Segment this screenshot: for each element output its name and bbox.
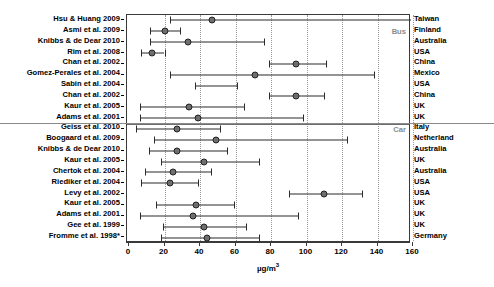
ci-cap-high [246,223,247,230]
data-point-marker [204,234,211,241]
ci-cap-low [141,180,142,187]
ci-cap-low [140,104,141,111]
country-label: USA [414,79,494,90]
confidence-interval-line [140,215,298,216]
plot-row [127,69,409,80]
study-label: Sabin et al. 2004 [0,79,124,90]
plot-row [127,102,409,113]
data-point-marker [173,147,180,154]
data-point-marker [200,223,207,230]
data-point-marker [212,136,219,143]
data-point-marker [166,180,173,187]
x-tick-label-100: 100 [299,247,312,256]
y-axis-tick [121,84,124,85]
x-tick-40 [199,242,200,246]
country-label: Germany [414,231,494,242]
ci-cap-high [326,60,327,67]
country-label-column: TaiwanFinlandAustraliaUSAChinaMexicoUSAC… [414,14,494,242]
ci-cap-high [264,39,265,46]
ci-cap-low [145,169,146,176]
y-axis-tick [121,63,124,64]
data-point-marker [173,125,180,132]
ci-cap-low [170,71,171,78]
plot-row [127,200,409,211]
country-label: Australia [414,166,494,177]
ci-cap-low [170,17,171,24]
study-label: Hsu & Huang 2009 [0,14,124,25]
data-point-marker [292,93,299,100]
x-tick-140 [377,242,378,246]
data-point-marker [321,191,328,198]
study-label: Levy et al. 2002 [0,188,124,199]
plot-row [127,167,409,178]
country-label: UK [414,155,494,166]
study-label: Kaur et al. 2005 [0,198,124,209]
y-axis-tick [121,236,124,237]
plot-row [127,37,409,48]
data-point-marker [170,169,177,176]
confidence-interval-line [154,139,347,140]
y-axis-tick [121,117,124,118]
plot-row [127,15,409,26]
plot-area: BusCar [126,14,410,242]
country-label: Mexico [414,68,494,79]
x-axis-unit: µg/m [257,264,276,273]
y-axis-tick [121,95,124,96]
study-label: Gomez-Perales et al. 2004 [0,68,124,79]
ci-cap-high [259,234,260,241]
ci-cap-high [362,191,363,198]
ci-cap-low [154,136,155,143]
x-tick-label-160: 160 [405,247,418,256]
country-label: UK [414,101,494,112]
ci-cap-high [237,82,238,89]
plot-row [127,124,409,135]
y-axis-tick [121,215,124,216]
x-tick-60 [235,242,236,246]
country-label: UK [414,209,494,220]
x-tick-20 [164,242,165,246]
confidence-interval-line [170,20,411,21]
country-label: UK [414,198,494,209]
study-label-column: Hsu & Huang 2009Asmi et al. 2009Knibbs &… [0,14,124,242]
country-label: USA [414,177,494,188]
x-tick-label-40: 40 [195,247,204,256]
confidence-interval-line [149,150,227,151]
study-label: Geiss et al. 2010 [0,122,124,133]
y-axis-tick [121,52,124,53]
plot-row [127,48,409,59]
forest-plot-figure: Hsu & Huang 2009Asmi et al. 2009Knibbs &… [0,0,494,287]
plot-row [127,91,409,102]
x-axis-line [126,242,410,243]
plot-row [127,178,409,189]
y-axis-tick [121,150,124,151]
data-point-marker [209,17,216,24]
ci-cap-low [195,82,196,89]
ci-cap-high [244,104,245,111]
ci-cap-low [269,60,270,67]
y-axis-tick [121,171,124,172]
group-divider-extended [0,123,494,124]
x-tick-0 [128,242,129,246]
study-label: Fromme et al. 1998* [0,231,124,242]
confidence-interval-line [150,42,264,43]
ci-cap-low [163,223,164,230]
plot-row [127,134,409,145]
data-point-marker [184,39,191,46]
ci-cap-low [161,158,162,165]
ci-cap-high [220,125,221,132]
confidence-interval-line [140,118,303,119]
y-axis-tick [121,160,124,161]
study-label: Gee et al. 1999 [0,220,124,231]
ci-cap-low [140,212,141,219]
plot-row [127,189,409,200]
ci-cap-low [161,234,162,241]
country-label: Finland [414,25,494,36]
ci-cap-low [149,147,150,154]
study-label: Chertok et al. 2004 [0,166,124,177]
study-label: Chan et al. 2002 [0,57,124,68]
ci-cap-low [269,93,270,100]
y-axis-tick [121,41,124,42]
x-axis-unit-exponent: 3 [276,262,279,268]
ci-cap-high [347,136,348,143]
data-point-marker [292,60,299,67]
